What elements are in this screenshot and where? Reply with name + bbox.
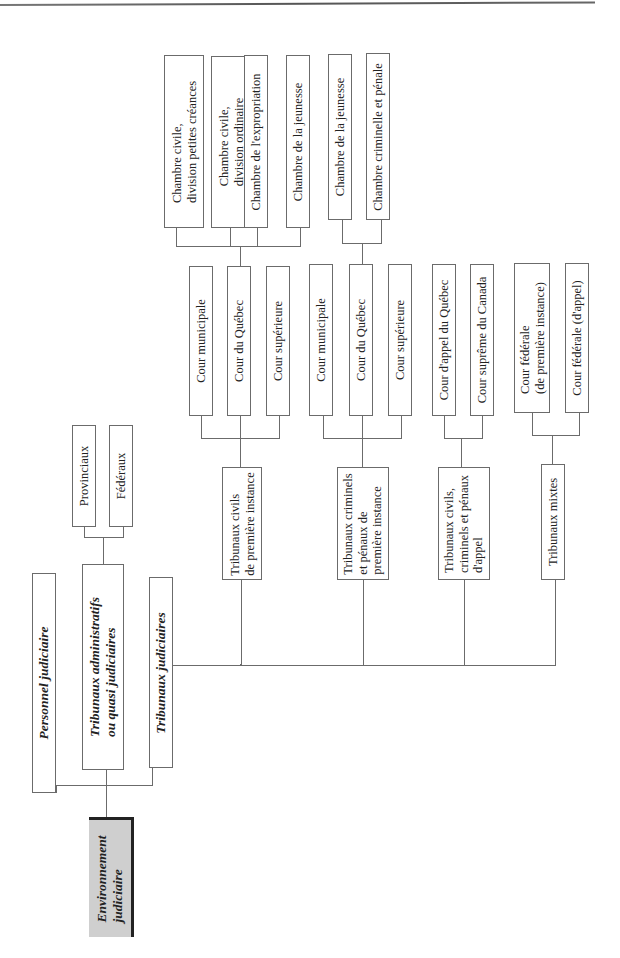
root-node-environnement-judiciaire: Environnement judiciaire [89, 817, 134, 937]
node-label: Cour fédérale (d'appel) [570, 280, 585, 395]
connector [482, 416, 483, 439]
node-label: Cour municipale [314, 298, 329, 382]
node-label: Tribunaux mixtes [546, 478, 561, 566]
node-label: Tribunaux criminels et pénaux de premièr… [341, 473, 385, 574]
connector [106, 785, 107, 817]
node-label: Environnement judiciaire [94, 835, 126, 922]
node-chambre-civile-petites-creances: Chambre civile, division petites créance… [164, 55, 204, 228]
node-tribunaux-criminels-premiere-instance: Tribunaux criminels et pénaux de premièr… [337, 467, 389, 580]
connector [257, 228, 258, 247]
connector [532, 435, 580, 436]
node-civil-cour-superieure: Cour supérieure [266, 266, 290, 416]
connector [461, 438, 462, 468]
connector [279, 416, 280, 439]
connector [84, 527, 85, 538]
connector [381, 220, 382, 244]
connector [240, 246, 241, 266]
node-label: Cour d'appel du Québec [437, 280, 452, 401]
node-label: Cour municipale [194, 299, 209, 383]
node-criminal-cour-municipale: Cour municipale [309, 264, 333, 416]
connector [106, 770, 107, 786]
connector [201, 416, 202, 439]
node-label: Tribunaux administratifs ou quasi judici… [87, 597, 119, 737]
connector [401, 416, 402, 439]
connector [240, 416, 241, 439]
node-cour-appel-quebec: Cour d'appel du Québec [432, 264, 456, 416]
connector [552, 435, 553, 465]
connector [103, 537, 104, 564]
node-tribunaux-administratifs: Tribunaux administratifs ou quasi judici… [82, 564, 124, 770]
connector [300, 228, 301, 247]
page-top-rule [0, 1, 595, 6]
node-label: Chambre civile, division ordinaire [217, 98, 246, 187]
connector [342, 220, 343, 244]
connector [555, 580, 556, 666]
connector [56, 785, 57, 793]
node-label: Tribunaux civils, criminels et pénaux d'… [442, 475, 486, 573]
node-federaux: Fédéraux [109, 425, 133, 527]
node-civil-cour-municipale: Cour municipale [189, 266, 213, 416]
node-cour-federale-appel: Cour fédérale (d'appel) [565, 263, 589, 413]
node-label: Chambre civile, division petites créance… [170, 80, 199, 202]
node-label: Provinciaux [77, 446, 92, 506]
node-label: Cour du Québec [232, 300, 247, 382]
connector [464, 580, 465, 666]
node-label: Cour supérieure [271, 301, 286, 381]
node-personnel-judiciaire: Personnel judiciaire [32, 573, 56, 793]
node-cour-federale-premiere-instance: Cour fédérale (de première instance) [514, 263, 550, 413]
node-label: Chambre de la jeunesse [291, 82, 306, 200]
connector [323, 416, 324, 439]
connector [579, 413, 580, 436]
node-label: Chambre de l'expropriation [249, 73, 264, 210]
connector [123, 527, 124, 538]
connector [363, 580, 364, 666]
node-label: Cour suprême du Canada [475, 277, 490, 404]
connector [342, 243, 382, 244]
node-civil-cour-du-quebec: Cour du Québec [227, 266, 251, 416]
node-label: Cour fédérale (de première instance) [518, 282, 547, 394]
connector [444, 416, 445, 439]
connector [532, 413, 533, 436]
connector [56, 785, 152, 786]
node-chambre-criminelle-penale: Chambre criminelle et pénale [366, 53, 390, 220]
node-chambre-expropriation: Chambre de l'expropriation [244, 55, 268, 228]
node-tribunaux-mixtes: Tribunaux mixtes [541, 464, 565, 580]
node-provinciaux: Provinciaux [72, 425, 96, 527]
connector [176, 228, 177, 247]
node-tribunaux-civils-premiere-instance: Tribunaux civils de première instance [222, 467, 262, 580]
connector [84, 537, 124, 538]
node-tribunaux-appel: Tribunaux civils, criminels et pénaux d'… [438, 467, 490, 580]
node-label: Cour du Québec [354, 299, 369, 381]
connector [152, 768, 153, 786]
connector [166, 665, 556, 666]
connector [362, 243, 363, 266]
connector [240, 438, 241, 468]
node-cour-supreme-canada: Cour suprême du Canada [470, 264, 494, 416]
node-label: Cour supérieure [393, 300, 408, 380]
connector [444, 438, 483, 439]
node-tribunaux-judiciaires: Tribunaux judiciaires [149, 577, 173, 768]
node-criminal-cour-du-quebec: Cour du Québec [349, 264, 373, 416]
node-label: Personnel judiciaire [36, 627, 52, 740]
node-criminal-chambre-jeunesse: Chambre de la jeunesse [328, 54, 352, 220]
node-civil-chambre-jeunesse: Chambre de la jeunesse [286, 55, 310, 228]
node-criminal-cour-superieure: Cour supérieure [388, 264, 412, 416]
node-label: Fédéraux [114, 453, 129, 500]
connector [362, 416, 363, 439]
connector [230, 228, 231, 247]
node-label: Chambre de la jeunesse [333, 78, 348, 196]
node-label: Tribunaux civils de première instance [228, 472, 257, 575]
connector [241, 580, 242, 666]
connector [362, 438, 363, 468]
connector [176, 246, 301, 247]
node-label: Tribunaux judiciaires [153, 612, 169, 733]
node-label: Chambre criminelle et pénale [371, 63, 386, 211]
